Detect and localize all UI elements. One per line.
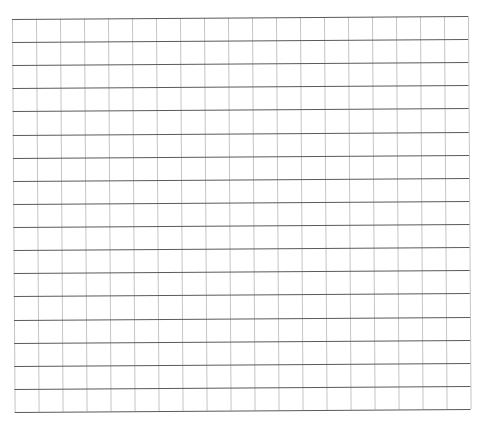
grid-horizontal-line bbox=[14, 363, 470, 367]
grid-vertical-line bbox=[300, 17, 304, 410]
grid-vertical-line bbox=[132, 18, 136, 411]
grid-horizontal-line bbox=[13, 155, 469, 159]
grid-horizontal-line bbox=[14, 386, 470, 390]
grid-vertical-line bbox=[252, 17, 256, 410]
grid-vertical-line bbox=[204, 18, 208, 411]
grid-horizontal-line bbox=[12, 39, 468, 43]
grid-horizontal-line bbox=[12, 85, 468, 89]
grid-vertical-line bbox=[228, 18, 232, 411]
grid-vertical-line bbox=[36, 19, 40, 412]
grid-horizontal-line bbox=[13, 178, 469, 182]
grid-horizontal-line bbox=[15, 409, 471, 413]
grid-horizontal-line bbox=[14, 316, 470, 320]
grid-horizontal-line bbox=[14, 270, 470, 274]
grid-vertical-line bbox=[60, 19, 64, 412]
grid-horizontal-line bbox=[13, 201, 469, 205]
grid-vertical-line bbox=[324, 17, 328, 410]
grid-vertical-line bbox=[348, 17, 352, 410]
grid-vertical-line bbox=[180, 18, 184, 411]
grid-vertical-line bbox=[12, 19, 16, 412]
grid-horizontal-line bbox=[13, 108, 469, 112]
grid-horizontal-line bbox=[14, 340, 470, 344]
grid-horizontal-line bbox=[13, 224, 469, 228]
grid-vertical-line bbox=[156, 18, 160, 411]
grid-horizontal-line bbox=[14, 247, 470, 251]
grid-vertical-line bbox=[108, 18, 112, 411]
grid-vertical-line bbox=[420, 16, 424, 409]
grid-vertical-line bbox=[276, 17, 280, 410]
grid-vertical-line bbox=[84, 19, 88, 412]
grid-vertical-line bbox=[372, 17, 376, 410]
grid-vertical-line bbox=[396, 16, 400, 409]
grid-horizontal-line bbox=[14, 293, 470, 297]
grid-vertical-line bbox=[468, 16, 472, 409]
grid-horizontal-line bbox=[13, 132, 469, 136]
grid-vertical-line bbox=[444, 16, 448, 409]
grid-paper bbox=[12, 16, 471, 412]
grid-horizontal-line bbox=[12, 16, 468, 20]
grid-horizontal-line bbox=[12, 62, 468, 66]
